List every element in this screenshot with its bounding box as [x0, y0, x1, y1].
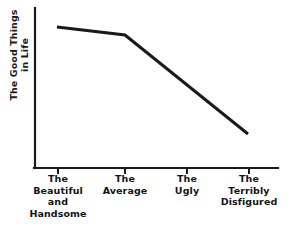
- plot-area: [0, 0, 292, 226]
- data-series-line: [57, 27, 248, 134]
- chart-container: The Good Things in Life The Beautiful an…: [0, 0, 292, 226]
